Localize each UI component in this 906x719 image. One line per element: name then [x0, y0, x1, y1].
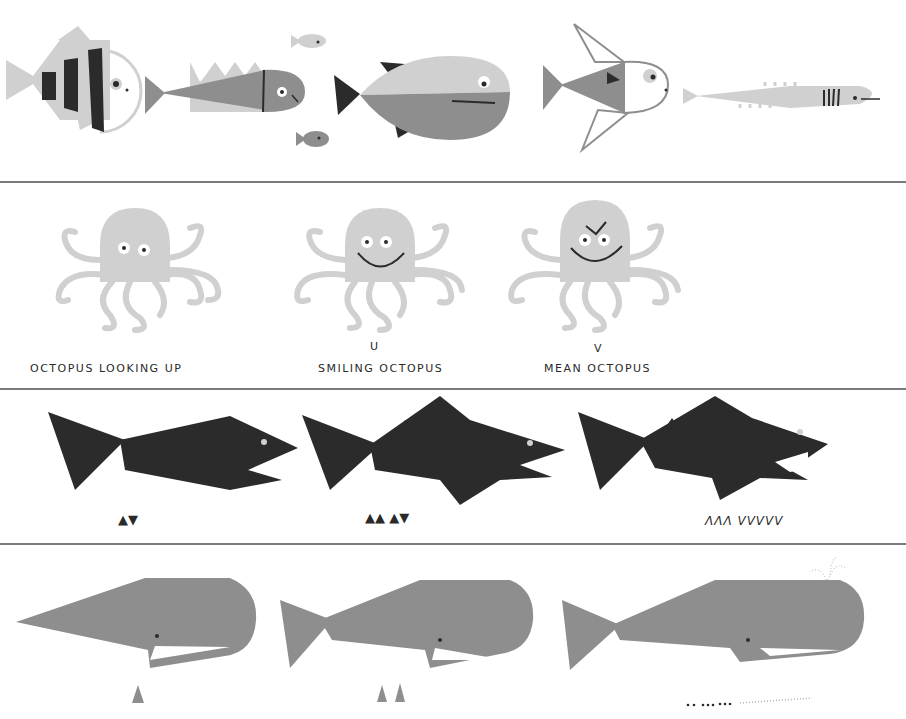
whale-row	[0, 0, 906, 719]
whale-3-spouting-icon	[562, 558, 864, 707]
illustration-sheet: OCTOPUS LOOKING UP U SMILING OCTOPUS V M…	[0, 0, 906, 719]
whale-2-icon	[280, 580, 533, 702]
whale-1-icon	[16, 578, 256, 703]
